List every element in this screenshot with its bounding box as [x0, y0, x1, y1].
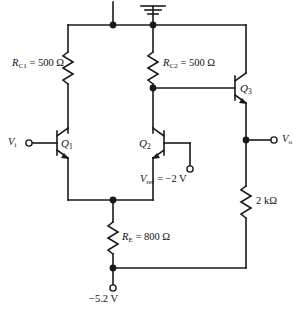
label-rc2-value: 500 Ω [189, 57, 215, 68]
terminal-output-circle [271, 137, 277, 143]
label-re-equals: = [133, 231, 144, 242]
terminal-supply-circle [110, 285, 116, 291]
label-output-terminal: Vo [282, 134, 292, 146]
label-q1: Q1 [61, 138, 73, 151]
node-dot-q2-collector [150, 85, 157, 92]
label-q2-subscript: 2 [147, 142, 151, 151]
label-q2: Q2 [139, 138, 151, 151]
label-rc1: RC1 = 500 Ω [12, 58, 64, 70]
wire-q1-collector-slope [57, 128, 68, 136]
label-vref: Vref = −2 V [140, 174, 187, 186]
label-rc1-equals: = [27, 57, 38, 68]
node-dot-top-ground [150, 22, 157, 29]
label-input-terminal: Vi [8, 137, 16, 149]
label-q3: Q3 [240, 83, 252, 96]
label-re: RE = 800 Ω [122, 232, 170, 244]
circuit-diagram: RC1 = 500 Ω RC2 = 500 Ω RE = 800 Ω 2 kΩ … [0, 0, 302, 310]
label-q3-name: Q [240, 82, 248, 94]
wire-q3-collector-slope [235, 73, 246, 81]
label-q1-name: Q [61, 137, 69, 149]
label-rl-value: 2 kΩ [256, 195, 277, 206]
resistor-rl-symbol [241, 186, 251, 218]
terminal-vref-circle [187, 166, 193, 172]
label-output-subscript: o [288, 138, 292, 146]
node-dot-emitter-tail [110, 197, 117, 204]
label-q2-name: Q [139, 137, 147, 149]
label-vref-value: −2 V [166, 173, 187, 184]
label-q3-subscript: 3 [248, 87, 252, 96]
label-vref-equals: = [154, 173, 165, 184]
label-supply-value: −5.2 V [89, 293, 118, 304]
label-q1-subscript: 1 [69, 142, 73, 151]
resistor-re-symbol [108, 222, 118, 254]
label-rc2-subscript: C2 [169, 62, 177, 70]
node-dot-top-left [110, 22, 117, 29]
label-rl: 2 kΩ [256, 196, 277, 207]
label-rc2: RC2 = 500 Ω [163, 58, 215, 70]
label-re-value: 800 Ω [144, 231, 170, 242]
label-input-subscript: i [14, 141, 16, 149]
wire-q2-collector-slope [153, 128, 164, 136]
node-dot-output [243, 137, 250, 144]
label-rc1-subscript: C1 [18, 62, 26, 70]
terminal-input-circle [26, 140, 32, 146]
node-dot-supply [110, 265, 117, 272]
label-supply: −5.2 V [89, 294, 118, 305]
schematic-vector-layer [0, 0, 302, 310]
label-rc1-value: 500 Ω [38, 57, 64, 68]
label-rc2-equals: = [178, 57, 189, 68]
resistor-rc1-symbol [63, 52, 73, 84]
resistor-rc2-symbol [148, 52, 158, 84]
